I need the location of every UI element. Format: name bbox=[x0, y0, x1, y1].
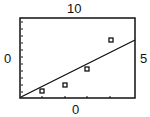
scatter-plot bbox=[0, 0, 150, 117]
fit-line bbox=[21, 40, 135, 97]
data-points bbox=[40, 38, 113, 93]
y-axis-ticks bbox=[21, 22, 23, 92]
plot-frame bbox=[20, 18, 135, 98]
